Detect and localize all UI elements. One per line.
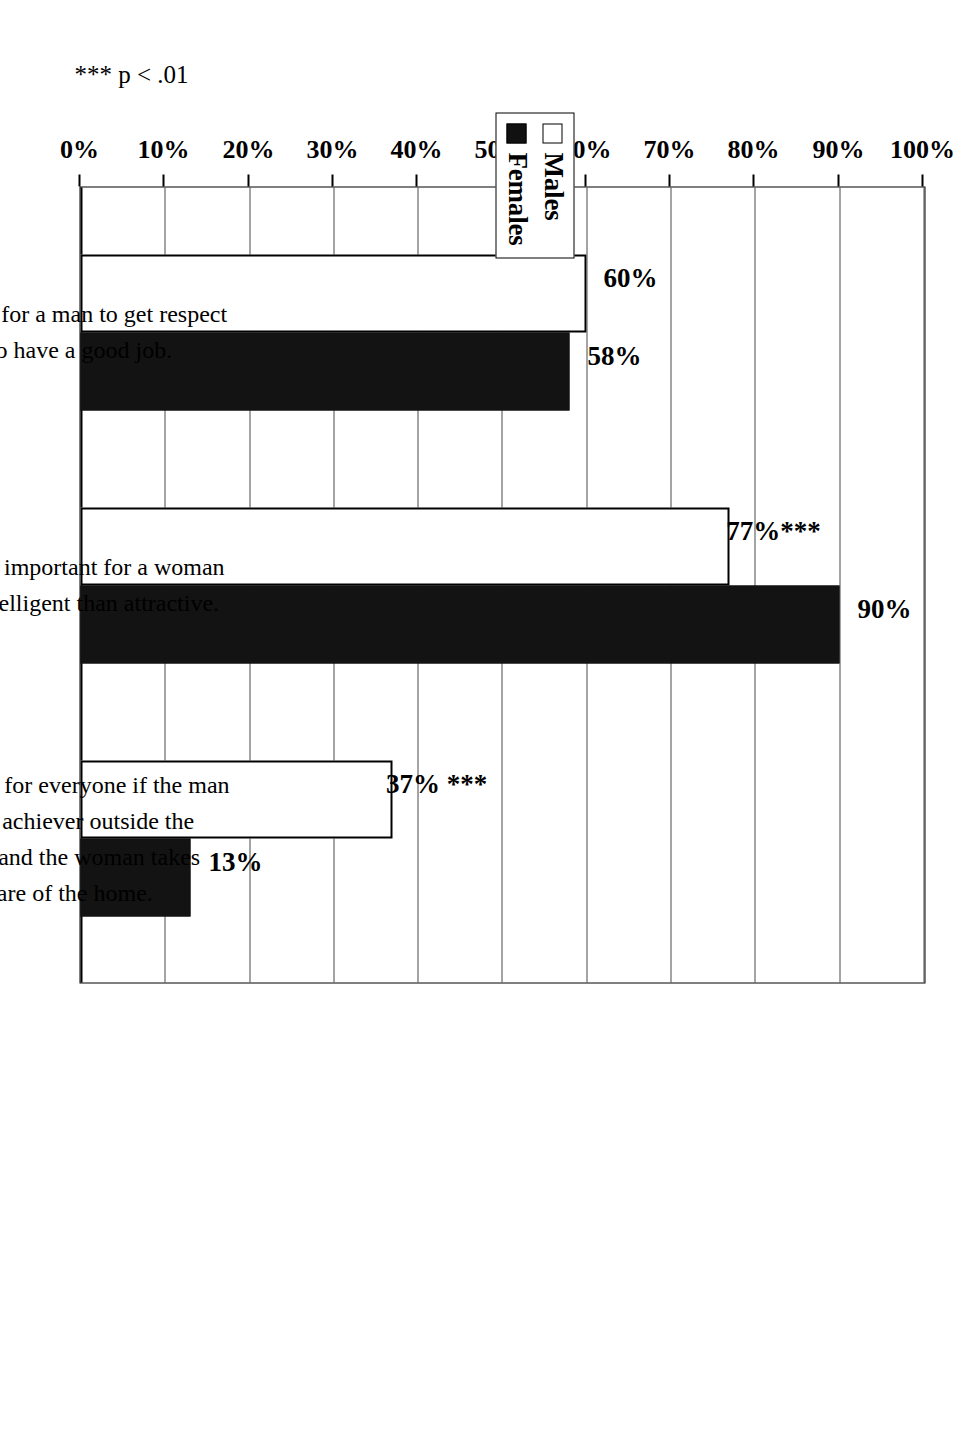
tick-mark xyxy=(162,174,164,186)
tick-mark xyxy=(752,174,754,186)
bar-value-label: 58% xyxy=(587,340,641,371)
category-label-text: The way for a man to get respectis to ha… xyxy=(0,295,227,367)
legend-item-females: Females xyxy=(503,123,530,245)
category-axis-labels: The way for a man to get respectis to ha… xyxy=(9,186,69,983)
category-label-line: to be intelligent than attractive. xyxy=(0,584,224,620)
legend-swatch-females-icon xyxy=(507,123,527,143)
tick-mark xyxy=(415,174,417,186)
category-label-line: home and the woman takes xyxy=(0,838,229,874)
category-label-line: It's more important for a woman xyxy=(0,548,224,584)
chart-stage: Males Females 60%58%77%***90%37% ***13% … xyxy=(0,0,974,1447)
chart-legend: Males Females xyxy=(495,112,574,258)
tick-mark xyxy=(584,174,586,186)
value-axis-tick-label: 10% xyxy=(137,134,189,164)
value-axis-tick-label: 90% xyxy=(812,134,864,164)
legend-swatch-males-icon xyxy=(543,123,563,143)
tick-mark xyxy=(78,174,80,186)
value-axis-tick-label: 70% xyxy=(643,134,695,164)
value-axis-tick-label: 100% xyxy=(890,134,955,164)
significance-footnote: *** p < .01 xyxy=(74,60,188,88)
tick-mark xyxy=(837,174,839,186)
bar-value-label: 60% xyxy=(603,262,657,293)
value-axis-tick-label: 0% xyxy=(60,134,99,164)
category-label-line: It's better for everyone if the man xyxy=(0,766,229,802)
bar-value-label: 90% xyxy=(857,593,911,624)
legend-item-males: Males xyxy=(539,123,566,245)
tick-mark xyxy=(921,174,923,186)
legend-label-females: Females xyxy=(503,152,530,245)
legend-label-males: Males xyxy=(539,152,566,220)
tick-mark xyxy=(668,174,670,186)
tick-mark xyxy=(247,174,249,186)
bar-value-label: 37% *** xyxy=(385,768,486,799)
value-axis-tick-label: 20% xyxy=(222,134,274,164)
bar-value-label: 77%*** xyxy=(726,515,821,546)
category-label-line: The way for a man to get respect xyxy=(0,295,227,331)
value-axis-tick-label: 80% xyxy=(727,134,779,164)
category-label: It's better for everyone if the manis th… xyxy=(9,724,69,952)
tick-mark xyxy=(331,174,333,186)
value-axis-tick-label: 30% xyxy=(306,134,358,164)
category-label: The way for a man to get respectis to ha… xyxy=(9,217,69,445)
category-label-line: is the achiever outside the xyxy=(0,802,229,838)
value-axis-tick-label: 40% xyxy=(390,134,442,164)
category-label-text: It's more important for a womanto be int… xyxy=(0,548,224,620)
category-label-line: care of the home. xyxy=(0,874,229,910)
category-label-text: It's better for everyone if the manis th… xyxy=(0,766,229,910)
category-label: It's more important for a womanto be int… xyxy=(9,470,69,698)
category-label-line: is to have a good job. xyxy=(0,331,227,367)
